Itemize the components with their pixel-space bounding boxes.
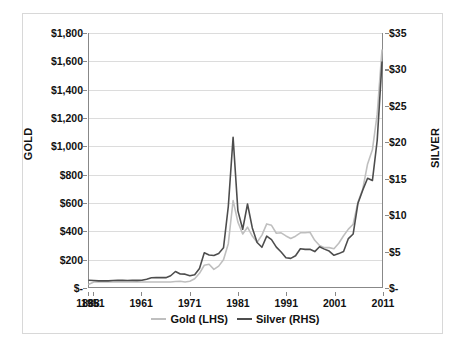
left-axis-tick-label: $1,200: [51, 113, 83, 123]
left-axis-tickmark: [83, 61, 87, 62]
right-axis-tick-label: $30: [389, 64, 407, 74]
left-axis-tick-label: $1,400: [51, 85, 83, 95]
right-axis-tick-label: $15: [389, 174, 407, 184]
left-axis-tick-label: $1,800: [51, 28, 83, 38]
x-axis-tickmark: [190, 292, 191, 296]
right-axis-tickmark: [385, 179, 389, 180]
right-axis-tickmark: [385, 69, 389, 70]
left-axis-tick-label: $400: [60, 226, 83, 236]
legend-item[interactable]: Silver (RHS): [237, 313, 320, 325]
left-axis-tickmark: [83, 231, 87, 232]
right-axis-tickmark: [385, 288, 389, 289]
x-axis-tickmark: [88, 292, 89, 296]
left-axis-tick-label: $1,000: [51, 141, 83, 151]
left-axis-tickmark: [83, 90, 87, 91]
right-axis-tick-label: $-: [389, 283, 398, 293]
legend-label: Gold (LHS): [170, 313, 227, 325]
legend-item[interactable]: Gold (LHS): [151, 313, 227, 325]
left-axis-tick-label: $-: [74, 283, 83, 293]
left-axis-tick-label: $1,600: [51, 56, 83, 66]
left-axis-tick-label: $200: [60, 255, 83, 265]
right-axis-title: SILVER: [429, 117, 441, 179]
right-axis-tick-label: $20: [389, 137, 407, 147]
x-axis-tickmark: [93, 292, 94, 296]
chart-legend: Gold (LHS)Silver (RHS): [88, 310, 383, 328]
x-axis-ticks: 18881951196119711981199120012011: [88, 292, 383, 308]
right-axis-tickmark: [385, 33, 389, 34]
left-axis-tickmark: [83, 175, 87, 176]
x-axis-tickmark: [238, 292, 239, 296]
x-axis-tickmark: [141, 292, 142, 296]
left-axis-tick-label: $800: [60, 170, 83, 180]
right-axis-ticks: $35$30$25$20$15$10$5$-: [389, 33, 427, 288]
right-axis-tickmark: [385, 106, 389, 107]
left-axis-tick-label: $600: [60, 198, 83, 208]
legend-line-swatch: [151, 318, 166, 320]
legend-line-swatch: [237, 318, 252, 320]
right-axis-tick-label: $5: [389, 247, 401, 257]
plot-area: [88, 33, 383, 288]
left-axis-tickmark: [83, 118, 87, 119]
x-axis-tick-label: 2001: [323, 297, 346, 309]
left-axis-ticks: $1,800$1,600$1,400$1,200$1,000$800$600$4…: [30, 33, 83, 288]
left-axis-tickmark: [83, 203, 87, 204]
left-axis-tickmark: [83, 33, 87, 34]
x-axis-tick-label: 1991: [275, 297, 298, 309]
series-lines: [89, 33, 382, 287]
right-axis-tick-label: $35: [389, 28, 407, 38]
x-axis-tick-label: 1971: [178, 297, 201, 309]
x-axis-tick-label: 1951: [81, 297, 104, 309]
x-axis-tickmark: [286, 292, 287, 296]
x-axis-tick-label: 1981: [226, 297, 249, 309]
legend-label: Silver (RHS): [256, 313, 320, 325]
right-axis-tick-label: $25: [389, 101, 407, 111]
x-axis-tick-label: 1961: [130, 297, 153, 309]
x-axis-tickmark: [383, 292, 384, 296]
x-axis-tick-label: 2011: [372, 297, 395, 309]
left-axis-tickmark: [83, 288, 87, 289]
right-axis-tick-label: $10: [389, 210, 407, 220]
silver-line-series: [89, 62, 382, 281]
left-axis-tickmark: [83, 146, 87, 147]
right-axis-tickmark: [385, 142, 389, 143]
left-axis-tickmark: [83, 260, 87, 261]
gold-silver-price-chart: GOLD SILVER $1,800$1,600$1,400$1,200$1,0…: [0, 0, 466, 347]
right-axis-tickmark: [385, 215, 389, 216]
x-axis-tickmark: [335, 292, 336, 296]
right-axis-tickmark: [385, 252, 389, 253]
